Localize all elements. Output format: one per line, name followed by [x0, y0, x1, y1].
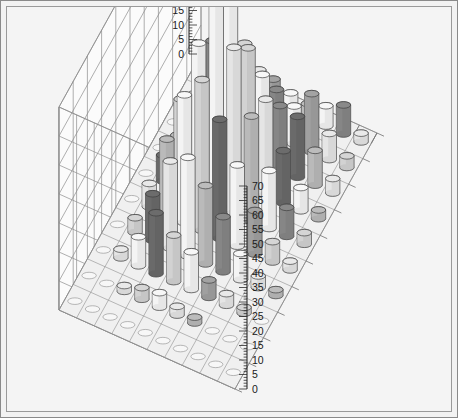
- bar-top-cap: [219, 290, 233, 297]
- bar-highlight: [149, 209, 155, 273]
- x-axis-tick: [349, 184, 356, 187]
- bar-cylinder: [308, 147, 322, 188]
- bar-top-cap: [117, 282, 131, 289]
- bar-cylinder: [340, 153, 354, 171]
- cell-base-marker: [156, 337, 170, 344]
- bar-top-cap: [128, 214, 142, 221]
- bar-cylinder: [354, 130, 368, 145]
- right-axis-tick-label: 70: [252, 180, 264, 192]
- right-axis-tick-label: 35: [252, 281, 264, 293]
- bar-cylinder: [166, 232, 180, 285]
- bar-top-cap: [230, 162, 244, 169]
- right-axis-tick-label: 50: [252, 238, 264, 250]
- bar-cylinder: [152, 289, 166, 310]
- bar-cylinder: [325, 175, 339, 196]
- left-axis-tick-label: 0: [178, 48, 184, 60]
- bar-top-cap: [167, 232, 181, 239]
- bar-top-cap: [202, 277, 216, 284]
- chart-3d-surface-plot: 0510152025303540455055606570051015202530…: [7, 7, 452, 412]
- bar-cylinder: [319, 102, 333, 129]
- bar-cylinder: [216, 213, 230, 275]
- bar-top-cap: [160, 136, 174, 143]
- bar-top-cap: [283, 258, 297, 265]
- bar-top-cap: [135, 284, 149, 291]
- cell-base-marker: [82, 272, 96, 279]
- cell-base-marker: [205, 328, 219, 335]
- x-axis-tick: [263, 338, 270, 341]
- bar-top-cap: [170, 303, 184, 310]
- bar-cylinder: [279, 204, 293, 240]
- bar-cylinder: [181, 154, 195, 259]
- bar-top-cap: [216, 213, 230, 220]
- bar-top-cap: [163, 158, 177, 165]
- bar-highlight: [290, 113, 296, 177]
- bar-cylinder: [117, 282, 131, 294]
- bar-highlight: [166, 232, 172, 282]
- right-axis-tick-label: 0: [252, 383, 258, 395]
- x-axis-tick: [334, 210, 341, 213]
- right-axis-tick-label: 25: [252, 310, 264, 322]
- bar-top-cap: [259, 96, 273, 103]
- bar-cylinder: [276, 147, 290, 206]
- bar-cylinder: [131, 233, 145, 269]
- bar-cylinder: [114, 246, 128, 261]
- bar-top-cap: [146, 190, 160, 197]
- bar-cylinder: [297, 229, 311, 247]
- bar-top-cap: [142, 180, 156, 187]
- bar-cylinder: [294, 184, 308, 214]
- bar-cylinder: [322, 130, 336, 163]
- cell-base-marker: [138, 329, 152, 336]
- bar-top-cap: [241, 45, 255, 52]
- bar-top-cap: [311, 207, 325, 214]
- bar-cylinder: [237, 304, 251, 316]
- bar-cylinder: [219, 290, 233, 308]
- bar-top-cap: [305, 90, 319, 97]
- left-axis-tick-label: 10: [172, 19, 184, 31]
- left-axis-tick-label: 15: [172, 7, 184, 16]
- bar-top-cap: [114, 246, 128, 253]
- bar-top-cap: [227, 44, 241, 51]
- bar-top-cap: [192, 40, 206, 47]
- bar-top-cap: [131, 233, 145, 240]
- right-axis-tick-label: 55: [252, 223, 264, 235]
- right-axis-tick-label: 60: [252, 209, 264, 221]
- bar-highlight: [230, 162, 236, 246]
- bar-top-cap: [284, 90, 298, 97]
- cell-base-marker: [223, 335, 237, 342]
- right-axis-tick-label: 40: [252, 267, 264, 279]
- right-axis-tick-label: 30: [252, 296, 264, 308]
- bar-cylinder: [202, 277, 216, 301]
- x-axis-tick: [306, 261, 313, 264]
- bar-top-cap: [255, 71, 269, 78]
- x-axis-tick: [363, 159, 370, 162]
- x-axis-tick: [235, 389, 242, 392]
- bar-top-cap: [269, 86, 283, 93]
- cell-base-marker: [110, 221, 124, 228]
- bar-cylinder: [230, 162, 244, 250]
- right-axis-tick-label: 20: [252, 325, 264, 337]
- cell-base-marker: [100, 280, 114, 287]
- right-axis-tick-label: 45: [252, 252, 264, 264]
- bar-top-cap: [326, 175, 340, 182]
- bar-top-cap: [181, 154, 195, 161]
- bar-top-cap: [269, 286, 283, 293]
- bar-top-cap: [276, 147, 290, 154]
- bar-top-cap: [265, 238, 279, 245]
- bar-cylinder: [198, 182, 212, 267]
- bar-top-cap: [294, 184, 308, 191]
- bar-cylinder: [269, 286, 283, 298]
- bar-top-cap: [244, 113, 258, 120]
- cell-base-marker: [96, 247, 110, 254]
- bar-top-cap: [308, 147, 322, 154]
- cell-base-marker: [209, 361, 223, 368]
- left-axis-tick-label: 5: [178, 33, 184, 45]
- bar-top-cap: [198, 182, 212, 189]
- bar-top-cap: [149, 209, 163, 216]
- x-axis-tick: [320, 235, 327, 238]
- bar-cylinder: [283, 258, 297, 273]
- cell-base-marker: [68, 298, 82, 305]
- bar-cylinder: [311, 207, 325, 222]
- bar-highlight: [216, 213, 222, 271]
- bar-top-cap: [290, 113, 304, 120]
- cell-base-marker: [191, 353, 205, 360]
